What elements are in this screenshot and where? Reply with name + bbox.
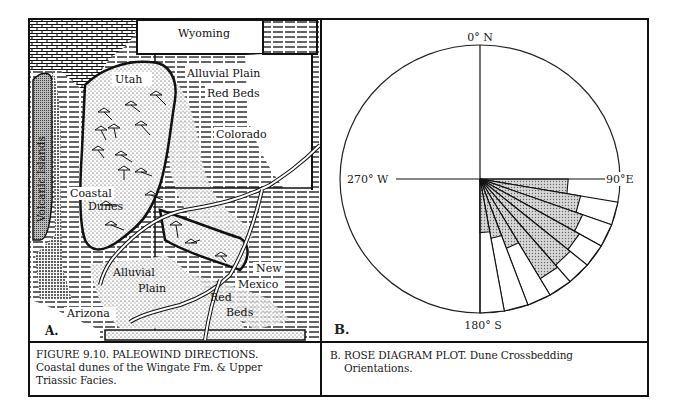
paleowind-map: Wyoming Utah Alluvial Plain Red Beds Col… — [30, 20, 320, 340]
caption-a: FIGURE 9.10. PALEOWIND DIRECTIONS. Coast… — [36, 348, 316, 387]
caption-b-title: B. ROSE DIAGRAM PLOT. Dune Crossbedding — [330, 349, 640, 362]
label-alluvial-plain-north: Alluvial Plain — [186, 67, 260, 80]
figure: Wyoming Utah Alluvial Plain Red Beds Col… — [0, 0, 673, 419]
label-wyoming: Wyoming — [178, 27, 230, 40]
label-coastal: Coastal — [70, 187, 112, 200]
label-utah: Utah — [115, 73, 142, 86]
rose-label-south: 180° S — [464, 319, 502, 332]
rose-diagram: 0° N 90°E 180° S 270° W B. — [334, 31, 641, 337]
caption-b-line2: Orientations. — [330, 362, 640, 375]
label-beds: Beds — [226, 306, 254, 319]
rose-label-west: 270° W — [347, 173, 389, 186]
label-new: New — [256, 262, 282, 275]
caption-a-line2: Coastal dunes of the Wingate Fm. & Upper — [36, 361, 316, 374]
label-dunes: Dunes — [88, 200, 123, 213]
panel-a-label: A. — [44, 324, 59, 338]
label-red: Red — [210, 291, 232, 304]
label-volcanic-islands: Volcanic Islands — [35, 136, 47, 223]
label-arizona: Arizona — [66, 307, 110, 320]
caption-a-line3: Triassic Facies. — [36, 374, 316, 387]
rose-label-east: 90°E — [606, 173, 634, 186]
caption-b: B. ROSE DIAGRAM PLOT. Dune Crossbedding … — [330, 349, 640, 375]
label-mexico: Mexico — [238, 278, 279, 291]
rose-petals — [480, 179, 618, 313]
label-colorado: Colorado — [216, 128, 267, 141]
caption-a-title: FIGURE 9.10. PALEOWIND DIRECTIONS. — [36, 348, 316, 361]
label-alluvial: Alluvial — [112, 266, 155, 279]
label-red-beds-north: Red Beds — [207, 87, 260, 100]
rose-label-north: 0° N — [467, 31, 493, 44]
label-plain: Plain — [138, 282, 166, 295]
panel-b-label: B. — [334, 322, 350, 337]
